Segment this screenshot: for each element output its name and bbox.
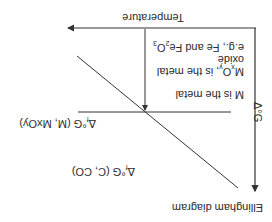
annotation-metal-oxide: MxOy, is the metal [157, 66, 244, 78]
diagram-title: Ellingham diagram [172, 202, 263, 214]
horizontal-line-label: Δf°G (M, MxOy) [19, 118, 96, 130]
ellingham-diagram: Ellingham diagram Δ°G Temperature Δf°G (… [0, 0, 272, 222]
diagram-lines [0, 0, 272, 222]
y-axis-label: Δ°G [252, 102, 264, 122]
annotation-metal: M is the metal [176, 89, 244, 101]
diagonal-line-label: Δf°G (C, CO) [72, 166, 135, 178]
x-axis-label: Temperature [122, 12, 184, 24]
annotation-example: e.g., Fe and Fe2O3 [153, 42, 244, 54]
annotation-oxide: oxide [218, 54, 244, 66]
